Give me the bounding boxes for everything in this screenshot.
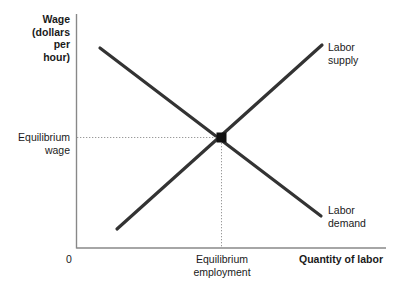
labor-demand-curve	[100, 48, 321, 216]
labor-market-equilibrium-diagram: Wage (dollars per hour) Equilibrium wage…	[0, 0, 398, 283]
labor-demand-label: Labor demand	[328, 204, 390, 229]
origin-label: 0	[63, 253, 75, 266]
x-axis-title: Quantity of labor	[299, 253, 397, 266]
y-axis-title: Wage (dollars per hour)	[8, 13, 70, 63]
equilibrium-wage-label: Equilibrium wage	[2, 131, 70, 156]
labor-supply-label: Labor supply	[328, 41, 390, 66]
equilibrium-employment-label: Equilibrium employment	[167, 253, 277, 278]
equilibrium-point-marker	[217, 133, 227, 143]
